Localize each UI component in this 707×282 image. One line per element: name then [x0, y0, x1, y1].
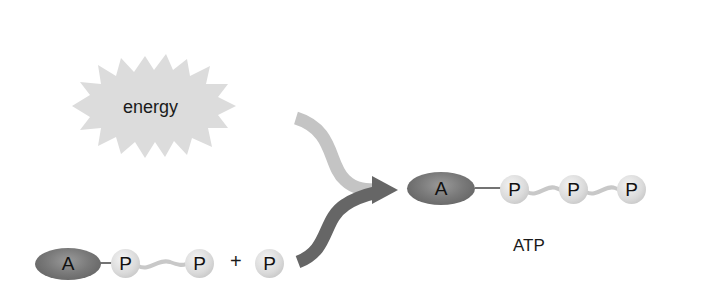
adenosine-ellipse: A [407, 172, 475, 205]
energy-label: energy [123, 97, 178, 118]
phosphate-label: P [119, 253, 132, 275]
phosphate-label: P [567, 179, 580, 201]
phosphate-circle: P [111, 249, 140, 278]
reactant-arrow [298, 192, 378, 262]
phosphate-circle: P [559, 175, 588, 204]
adenosine-label: A [62, 253, 75, 275]
phosphate-label: P [193, 253, 206, 275]
arrowhead-icon [372, 176, 398, 204]
diagram-canvas [0, 0, 707, 282]
plus-sign: + [230, 250, 242, 273]
phosphate-label: P [508, 179, 521, 201]
phosphate-label: P [263, 253, 276, 275]
phosphate-circle: P [185, 249, 214, 278]
energy-arrow [296, 118, 380, 190]
high-energy-bond [138, 261, 186, 267]
high-energy-bond [586, 187, 620, 193]
phosphate-circle: P [617, 175, 646, 204]
adenosine-ellipse: A [35, 248, 101, 280]
adenosine-label: A [435, 178, 448, 200]
atp-label: ATP [513, 236, 545, 256]
phosphate-label: P [625, 179, 638, 201]
high-energy-bond [527, 187, 562, 193]
phosphate-circle: P [255, 249, 284, 278]
phosphate-circle: P [500, 175, 529, 204]
